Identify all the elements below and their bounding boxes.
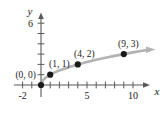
curve-arrowhead [146,46,156,53]
point-annotation-4-2: (4, 2) [74,49,95,60]
x-tick-label-neg2: -2 [18,90,26,101]
point-annotation-9-3: (9, 3) [118,39,139,50]
data-point-0-0 [38,82,44,88]
x-axis [14,82,150,89]
x-axis-label: x [154,85,160,97]
data-point-9-3 [121,51,127,57]
y-axis-arrowhead [38,13,44,20]
point-annotation-1-1: (1, 1) [49,59,70,70]
y-axis-label: y [27,5,33,17]
data-point-1-1 [47,72,53,78]
square-root-graph: y x 6 -2 5 10 (0, 0) (1, 1) (4, 2) (9, 3… [0,0,165,132]
chart-figure: y x 6 -2 5 10 (0, 0) (1, 1) (4, 2) (9, 3… [0,0,165,132]
data-point-4-2 [75,61,81,67]
x-tick-label-10: 10 [128,90,138,101]
x-axis-arrowhead [143,82,150,88]
x-tick-label-5: 5 [85,90,90,101]
y-tick-label-6: 6 [28,18,33,29]
point-annotation-0-0: (0, 0) [15,70,36,81]
